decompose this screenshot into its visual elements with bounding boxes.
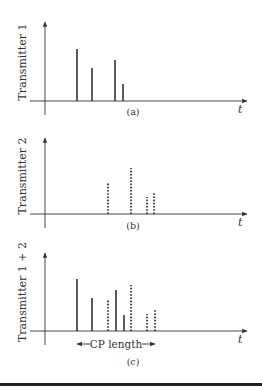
panel-caption: (b) bbox=[126, 220, 140, 231]
y-axis-label: Transmitter 1 bbox=[16, 24, 29, 101]
panel-a: Transmitter 1 t (a) bbox=[16, 22, 247, 117]
impulse-group bbox=[77, 279, 155, 331]
bottom-rule bbox=[0, 383, 262, 386]
y-axis-label: Transmitter 2 bbox=[16, 138, 29, 215]
panel-caption: (c) bbox=[127, 356, 140, 367]
panel-caption: (a) bbox=[126, 106, 139, 117]
impulse-group bbox=[77, 49, 123, 101]
x-axis-label-t: t bbox=[238, 216, 243, 229]
impulse-group bbox=[108, 168, 154, 214]
panel-c: Transmitter 1 + 2 t (c) CP length bbox=[16, 242, 247, 367]
cp-length-annotation: CP length bbox=[77, 338, 155, 350]
cp-multipath-figure: Transmitter 1 t (a) Transmitter 2 t (b) … bbox=[0, 0, 262, 388]
x-axis-label-t: t bbox=[238, 103, 243, 116]
cp-length-label: CP length bbox=[90, 338, 143, 350]
panel-b: Transmitter 2 t (b) bbox=[16, 138, 247, 231]
y-axis-label: Transmitter 1 + 2 bbox=[16, 242, 29, 342]
x-axis-label-t: t bbox=[238, 333, 243, 346]
